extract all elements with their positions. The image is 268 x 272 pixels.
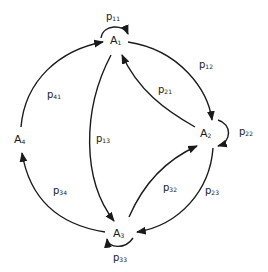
label-p41-sub: 41 xyxy=(53,93,61,100)
label-p12-sub: 12 xyxy=(205,63,213,70)
label-p33-sub: 33 xyxy=(119,256,127,263)
label-p22: p22 xyxy=(239,127,253,139)
label-p34-sub: 34 xyxy=(59,189,67,196)
label-p22-sub: 22 xyxy=(245,130,253,137)
node-a3-sub: 3 xyxy=(121,232,125,239)
node-a3-base: A xyxy=(113,227,121,240)
node-a4: A4 xyxy=(14,134,25,147)
label-p13: p13 xyxy=(96,134,110,146)
label-p21-sub: 21 xyxy=(164,88,172,95)
label-p34: p34 xyxy=(53,186,67,198)
edge-p22 xyxy=(218,120,229,146)
label-p21: p21 xyxy=(158,85,172,97)
node-a2-base: A xyxy=(200,127,208,140)
label-p33: p33 xyxy=(113,253,127,265)
label-p13-sub: 13 xyxy=(102,137,110,144)
label-p23-sub: 23 xyxy=(211,189,219,196)
node-a3: A3 xyxy=(113,228,124,241)
label-p23: p23 xyxy=(205,186,219,198)
node-a4-sub: 4 xyxy=(22,138,26,145)
label-p12: p12 xyxy=(199,60,213,72)
node-a2-sub: 2 xyxy=(208,132,212,139)
node-a4-base: A xyxy=(14,133,22,146)
label-p32: p32 xyxy=(163,183,177,195)
node-a1-base: A xyxy=(110,34,118,47)
diagram-canvas xyxy=(0,0,268,272)
label-p11: p11 xyxy=(106,12,120,24)
label-p32-sub: 32 xyxy=(169,186,177,193)
label-p11-sub: 11 xyxy=(112,15,120,22)
edge-p41 xyxy=(21,42,103,127)
edge-p12 xyxy=(128,42,212,120)
node-a1-sub: 1 xyxy=(118,39,122,46)
label-p41: p41 xyxy=(47,90,61,102)
node-a1: A1 xyxy=(110,35,121,48)
node-a2: A2 xyxy=(200,128,211,141)
